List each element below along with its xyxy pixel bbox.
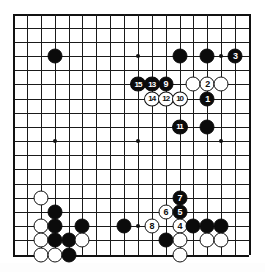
stone-black[interactable]	[61, 247, 76, 262]
star-point	[136, 224, 140, 228]
stone-black[interactable]	[47, 233, 62, 248]
move-number-label: 14	[148, 95, 155, 103]
move-number-label: 8	[150, 222, 154, 231]
stone-black[interactable]	[186, 219, 201, 234]
stone-white-move-2[interactable]: 2	[200, 77, 215, 92]
stone-white[interactable]	[172, 233, 187, 248]
go-board[interactable]: 315139214121011176584	[9, 10, 253, 258]
grid-line-horizontal	[13, 198, 249, 199]
stone-white[interactable]	[33, 233, 48, 248]
move-number-label: 10	[176, 95, 183, 103]
grid-line-vertical	[138, 14, 139, 255]
star-point	[136, 139, 140, 143]
grid-line-horizontal	[13, 155, 249, 156]
page-margin	[0, 263, 265, 272]
grid-line-horizontal	[13, 42, 249, 43]
move-number-label: 6	[164, 207, 168, 216]
stone-black[interactable]	[75, 219, 90, 234]
grid-line-horizontal	[13, 70, 249, 71]
grid-line-vertical	[27, 14, 28, 255]
move-number-label: 11	[176, 123, 182, 131]
stone-black[interactable]	[158, 233, 173, 248]
stone-black-move-11[interactable]: 11	[172, 119, 188, 134]
grid-line-vertical	[69, 14, 70, 255]
move-number-label: 12	[162, 95, 169, 103]
stone-black-move-5[interactable]: 5	[172, 204, 187, 219]
move-number-label: 9	[164, 80, 168, 89]
stone-black-move-7[interactable]: 7	[172, 190, 187, 205]
stone-black-move-9[interactable]: 9	[158, 77, 173, 92]
stone-white-move-6[interactable]: 6	[158, 204, 173, 219]
grid-line-vertical	[249, 14, 251, 255]
stone-black[interactable]	[61, 233, 76, 248]
stone-black[interactable]	[47, 49, 62, 64]
move-number-label: 15	[134, 80, 141, 88]
go-diagram-screenshot: 315139214121011176584	[0, 0, 265, 272]
stone-white[interactable]	[214, 77, 229, 92]
move-number-label: 2	[205, 80, 209, 89]
move-number-label: 3	[233, 52, 237, 61]
stone-black[interactable]	[200, 219, 215, 234]
stone-black[interactable]	[200, 49, 215, 64]
stone-white-move-10[interactable]: 10	[172, 91, 188, 106]
grid-line-horizontal	[13, 169, 249, 170]
star-point	[136, 54, 140, 58]
move-number-label: 13	[148, 80, 155, 88]
grid-line-vertical	[110, 14, 111, 255]
grid-line-horizontal	[13, 14, 249, 16]
stone-white[interactable]	[172, 247, 187, 262]
stone-white[interactable]	[33, 219, 48, 234]
move-number-label: 5	[177, 207, 181, 216]
stone-black[interactable]	[200, 119, 215, 134]
star-point	[219, 54, 223, 58]
grid-line-horizontal	[13, 184, 249, 185]
move-number-label: 1	[205, 94, 209, 103]
stone-black[interactable]	[214, 219, 229, 234]
stone-white[interactable]	[186, 77, 201, 92]
grid-line-vertical	[96, 14, 97, 255]
stone-black[interactable]	[47, 219, 62, 234]
stone-white[interactable]	[200, 233, 215, 248]
stone-black-move-3[interactable]: 3	[228, 49, 243, 64]
stone-white[interactable]	[214, 233, 229, 248]
move-number-label: 4	[177, 222, 181, 231]
stone-white[interactable]	[47, 247, 62, 262]
stone-white-move-8[interactable]: 8	[144, 219, 159, 234]
board-container: 315139214121011176584	[0, 0, 265, 272]
stone-black-move-1[interactable]: 1	[200, 91, 215, 106]
stone-white-move-4[interactable]: 4	[172, 219, 187, 234]
grid-line-horizontal	[13, 113, 249, 114]
star-point	[53, 139, 57, 143]
stone-black[interactable]	[172, 49, 187, 64]
grid-line-horizontal	[13, 141, 249, 142]
grid-line-vertical	[13, 14, 15, 255]
stone-white[interactable]	[33, 247, 48, 262]
stone-black[interactable]	[117, 219, 132, 234]
stone-white[interactable]	[33, 190, 48, 205]
stone-black[interactable]	[47, 204, 62, 219]
move-number-label: 7	[177, 193, 181, 202]
star-point	[219, 139, 223, 143]
grid-line-horizontal	[13, 28, 249, 29]
stone-white[interactable]	[75, 233, 90, 248]
